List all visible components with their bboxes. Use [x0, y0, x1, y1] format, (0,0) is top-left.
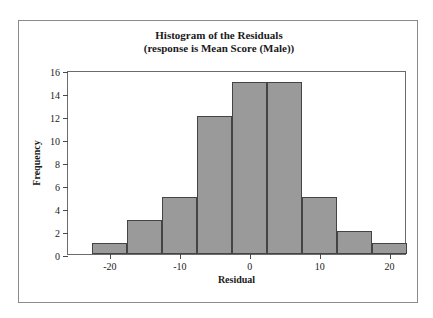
x-tick-label: 20	[385, 261, 395, 272]
x-tick-mark	[110, 254, 111, 259]
y-tick-mark	[63, 233, 68, 234]
chart-title-block: Histogram of the Residuals (response is …	[19, 29, 419, 55]
y-tick-mark	[63, 141, 68, 142]
y-tick-mark	[63, 95, 68, 96]
y-tick-mark	[63, 118, 68, 119]
histogram-bar	[162, 197, 197, 255]
plot-area: 0246810121416 -20-1001020	[67, 71, 406, 255]
y-tick-label: 0	[55, 251, 60, 262]
x-tick-label: -10	[173, 261, 186, 272]
histogram-bar	[337, 231, 372, 254]
y-axis-title: Frequency	[31, 71, 43, 255]
x-tick-mark	[320, 254, 321, 259]
histogram-bar	[232, 82, 267, 255]
y-tick-label: 8	[55, 159, 60, 170]
x-axis-title: Residual	[67, 274, 406, 285]
page-title: Histogram of the Residuals	[19, 29, 419, 42]
histogram-bar	[92, 243, 127, 255]
histogram-figure: Histogram of the Residuals (response is …	[18, 20, 418, 303]
histogram-bar	[267, 82, 302, 255]
histogram-bar	[197, 116, 232, 254]
x-tick-mark	[180, 254, 181, 259]
x-tick-label: 0	[247, 261, 252, 272]
histogram-bar	[127, 220, 162, 255]
x-tick-mark	[390, 254, 391, 259]
x-tick-label: 10	[315, 261, 325, 272]
x-tick-mark	[250, 254, 251, 259]
y-tick-label: 12	[50, 113, 60, 124]
y-tick-label: 16	[50, 67, 60, 78]
histogram-bar	[372, 243, 407, 255]
y-tick-label: 4	[55, 205, 60, 216]
y-tick-mark	[63, 256, 68, 257]
y-tick-mark	[63, 187, 68, 188]
y-tick-mark	[63, 72, 68, 73]
chart-subtitle: (response is Mean Score (Male))	[19, 42, 419, 55]
y-tick-label: 2	[55, 228, 60, 239]
y-tick-mark	[63, 164, 68, 165]
y-tick-label: 14	[50, 90, 60, 101]
bars-layer	[68, 72, 405, 254]
y-tick-mark	[63, 210, 68, 211]
histogram-bar	[302, 197, 337, 255]
x-tick-label: -20	[103, 261, 116, 272]
y-tick-label: 10	[50, 136, 60, 147]
y-tick-label: 6	[55, 182, 60, 193]
